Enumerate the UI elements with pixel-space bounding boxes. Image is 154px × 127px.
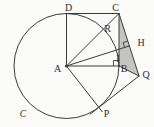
label-a: A bbox=[54, 63, 62, 74]
geometry-diagram: D C R H A I B Q P C bbox=[0, 0, 154, 127]
label-r: R bbox=[104, 23, 111, 34]
label-b: B bbox=[121, 63, 128, 74]
label-h: H bbox=[137, 37, 144, 48]
label-p: P bbox=[104, 108, 110, 119]
label-circle-name: C bbox=[20, 109, 27, 119]
segment-ap bbox=[67, 66, 103, 112]
label-i: I bbox=[116, 53, 119, 64]
label-c: C bbox=[112, 2, 119, 13]
center-point-a bbox=[65, 64, 68, 67]
label-q: Q bbox=[142, 69, 150, 80]
segment-qp bbox=[90, 76, 139, 114]
label-d: D bbox=[65, 2, 72, 13]
